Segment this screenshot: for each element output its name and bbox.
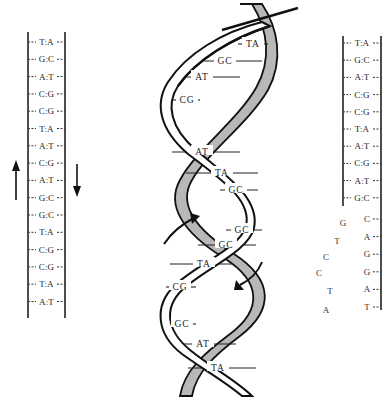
single-base-label: A xyxy=(364,232,371,242)
separated-bases: GTCCTA xyxy=(316,218,347,315)
base-pair-label: A:T xyxy=(354,176,369,186)
single-base-label: C xyxy=(364,214,370,224)
base-pair-label: G:C xyxy=(39,54,55,64)
right-duplex: T:AG:CA:TC:GC:GT:AA:TC:GA:TG:C CAGGAT GT… xyxy=(316,36,381,315)
separated-base-label: T xyxy=(334,236,340,246)
separated-base-label: A xyxy=(323,305,330,315)
base-pair-label: C:G xyxy=(354,158,370,168)
base-pair-label: G:C xyxy=(39,210,55,220)
separated-base-label: G xyxy=(340,218,347,228)
helix-base-pair-label: GC xyxy=(234,225,249,235)
base-pair-label: G:C xyxy=(354,55,370,65)
helix-base-pair-label: AT xyxy=(196,339,210,349)
separated-base-label: T xyxy=(327,286,333,296)
helix-base-pair-label: TA xyxy=(215,168,229,178)
left-duplex: T:AG:CA:TC:GC:GT:AA:TC:GA:TG:CG:CT:AC:GC… xyxy=(12,32,81,318)
separated-base-label: C xyxy=(316,268,322,278)
base-pair-label: C:G xyxy=(354,90,370,100)
helix-base-pair-label: CG xyxy=(172,282,187,292)
single-base-label: T xyxy=(364,302,370,312)
helix-base-pair-label: AT xyxy=(195,72,209,82)
helix-base-pair-label: AT xyxy=(195,147,209,157)
dna-replication-diagram: T:AG:CA:TC:GC:GT:AA:TC:GA:TG:CG:CT:AC:GC… xyxy=(0,0,390,402)
base-pair-label: C:G xyxy=(39,262,55,272)
single-base-label: A xyxy=(364,284,371,294)
base-pair-label: A:T xyxy=(354,141,369,151)
helix-base-pair-label: TA xyxy=(246,39,260,49)
base-pair-label: C:G xyxy=(354,107,370,117)
right-duplex-pairs: T:AG:CA:TC:GC:GT:AA:TC:GA:TG:C xyxy=(343,38,381,203)
helix-base-pair-label: TA xyxy=(197,259,211,269)
base-pair-label: A:T xyxy=(39,141,54,151)
base-pair-label: C:G xyxy=(39,106,55,116)
base-pair-label: G:C xyxy=(39,193,55,203)
single-base-label: G xyxy=(364,267,371,277)
base-pair-label: A:T xyxy=(354,72,369,82)
base-pair-label: T:A xyxy=(355,124,370,134)
single-base-label: G xyxy=(364,249,371,259)
base-pair-label: T:A xyxy=(39,37,54,47)
right-single-strand: CAGGAT xyxy=(364,214,381,312)
helix-base-pair-label: GC xyxy=(174,319,189,329)
base-pair-label: A:T xyxy=(39,175,54,185)
helix-base-pair-label: CG xyxy=(179,95,194,105)
double-helix: TAGCATCGATTAGCGCGCTACGGCATTA xyxy=(161,4,298,396)
arrow-up-icon xyxy=(12,160,20,200)
base-pair-label: C:G xyxy=(39,245,55,255)
base-pair-label: A:T xyxy=(39,297,54,307)
helix-base-pair-label: GC xyxy=(228,185,243,195)
base-pair-label: C:G xyxy=(39,158,55,168)
base-pair-label: T:A xyxy=(39,279,54,289)
helix-base-pair-label: GC xyxy=(217,56,232,66)
base-pair-label: T:A xyxy=(39,124,54,134)
base-pair-label: C:G xyxy=(39,89,55,99)
base-pair-label: T:A xyxy=(355,38,370,48)
helix-base-pair-label: GC xyxy=(218,240,233,250)
separated-base-label: C xyxy=(323,252,329,262)
helix-base-pair-label: TA xyxy=(211,363,225,373)
base-pair-label: A:T xyxy=(39,72,54,82)
base-pair-label: T:A xyxy=(39,227,54,237)
arrow-down-icon xyxy=(73,164,81,197)
left-duplex-pairs: T:AG:CA:TC:GC:GT:AA:TC:GA:TG:CG:CT:AC:GC… xyxy=(28,37,65,307)
base-pair-label: G:C xyxy=(354,193,370,203)
